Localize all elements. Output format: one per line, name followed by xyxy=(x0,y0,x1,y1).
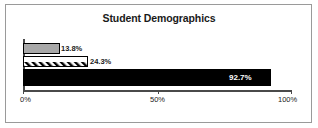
x-tick-0 xyxy=(23,90,24,94)
chart-image: Student Demographics 0% 50% 100% 13.8% xyxy=(0,0,318,128)
bar-series-2 xyxy=(23,56,88,67)
x-tick-100 xyxy=(291,90,292,94)
x-tick-label-50: 50% xyxy=(150,95,165,104)
x-tick-label-0: 0% xyxy=(20,95,31,104)
bar-series-1 xyxy=(23,43,60,54)
bar-label-1: 13.8% xyxy=(61,44,82,53)
x-tick-label-100: 100% xyxy=(278,95,297,104)
x-tick-50 xyxy=(158,90,159,94)
bar-label-2: 24.3% xyxy=(90,57,111,66)
hatch-pattern xyxy=(24,57,87,66)
bar-label-3: 92.7% xyxy=(229,73,252,82)
plot-area: 0% 50% 100% 13.8% 24.3% 92.7% xyxy=(0,0,318,128)
